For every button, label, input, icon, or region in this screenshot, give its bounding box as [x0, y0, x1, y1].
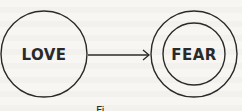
figure-caption: Fi	[96, 104, 105, 111]
fear-label: FEAR	[171, 46, 217, 64]
love-label: LOVE	[21, 46, 66, 64]
